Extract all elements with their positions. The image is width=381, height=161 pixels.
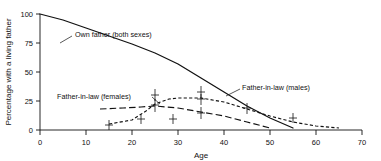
y-tick-label-100: 100 [20, 10, 33, 19]
x-tick-label-30: 30 [174, 138, 182, 147]
y-tick-label-25: 25 [25, 97, 33, 106]
data-point-marker [105, 120, 113, 130]
data-point-marker [169, 114, 177, 124]
x-tick-label-0: 0 [38, 138, 42, 147]
x-axis-ticks [40, 130, 362, 135]
leader-line-males [226, 89, 240, 96]
series-line-father-in-law-females [100, 106, 270, 128]
y-tick-label-0: 0 [29, 126, 33, 135]
chart-container: 0 25 50 75 100 0 10 20 30 40 50 60 70 Ag… [0, 0, 381, 161]
data-point-marker [197, 107, 205, 119]
x-tick-label-40: 40 [220, 138, 228, 147]
x-tick-label-20: 20 [128, 138, 136, 147]
x-tick-label-70: 70 [358, 138, 366, 147]
chart-plot-area: 0 25 50 75 100 0 10 20 30 40 50 60 70 Ag… [0, 0, 381, 161]
y-tick-label-50: 50 [25, 68, 33, 77]
x-tick-label-10: 10 [82, 138, 90, 147]
data-point-marker [137, 114, 145, 124]
series-line-father-in-law-males [109, 98, 339, 128]
y-axis-ticks [36, 14, 40, 130]
series-label-father-in-law-females: Father-in-law (females) [57, 92, 131, 101]
x-tick-label-60: 60 [312, 138, 320, 147]
y-axis-title: Percentage with a living father [4, 18, 13, 126]
data-point-markers [105, 86, 297, 130]
series-label-own-father: Own father (both sexes) [75, 30, 152, 39]
data-point-marker [197, 94, 205, 105]
leader-line-females [152, 97, 160, 104]
leader-line-own-father [60, 36, 72, 43]
series-label-father-in-law-males: Father-in-law (males) [242, 83, 310, 92]
x-axis-title: Age [194, 151, 209, 160]
y-tick-label-75: 75 [25, 39, 33, 48]
x-tick-label-50: 50 [266, 138, 274, 147]
